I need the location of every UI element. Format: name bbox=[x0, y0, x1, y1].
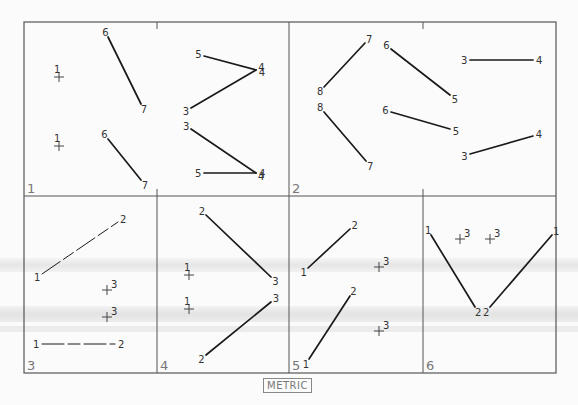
cross-marker: 3 bbox=[102, 279, 117, 295]
point-label: 5 bbox=[453, 126, 459, 137]
cross-label: 3 bbox=[383, 320, 389, 331]
panel-1-segment bbox=[191, 129, 256, 173]
point-label: 4 bbox=[536, 129, 542, 140]
cross-label: 1 bbox=[184, 296, 190, 307]
point-label: 3 bbox=[183, 121, 189, 132]
point-label: 5 bbox=[452, 94, 458, 105]
point-label: 2 bbox=[483, 307, 489, 318]
point-label: 6 bbox=[382, 105, 388, 116]
cross-label: 3 bbox=[111, 279, 117, 290]
point-label: 6 bbox=[383, 40, 389, 51]
panel-1-segment bbox=[108, 139, 141, 180]
point-label: 4 bbox=[259, 168, 265, 179]
point-label: 2 bbox=[475, 307, 481, 318]
cross-marker: 3 bbox=[102, 306, 117, 322]
point-label: 4 bbox=[258, 62, 264, 73]
cross-marker: 1 bbox=[184, 296, 194, 314]
cross-label: 1 bbox=[54, 133, 60, 144]
panel-2-segment bbox=[391, 112, 450, 129]
unit-system-label: METRIC bbox=[263, 378, 312, 393]
point-label: 5 bbox=[195, 49, 201, 60]
panel-5-segment bbox=[309, 296, 350, 359]
panel-4-segment bbox=[206, 215, 271, 277]
point-label: 7 bbox=[366, 34, 372, 45]
point-label: 2 bbox=[199, 206, 205, 217]
point-label: 3 bbox=[461, 151, 467, 162]
point-label: 3 bbox=[273, 293, 279, 304]
panel-6-segment bbox=[490, 235, 552, 307]
panel-number-4: 4 bbox=[160, 358, 168, 373]
point-label: 3 bbox=[461, 55, 467, 66]
panel-1-segment bbox=[204, 56, 256, 70]
point-label: 7 bbox=[142, 180, 148, 191]
point-label: 8 bbox=[317, 86, 323, 97]
cross-label: 1 bbox=[54, 64, 60, 75]
panel-6-segment bbox=[431, 235, 475, 307]
point-label: 7 bbox=[367, 161, 373, 172]
panel-1-segment bbox=[108, 37, 141, 104]
cross-marker: 1 bbox=[184, 262, 194, 280]
cross-marker: 3 bbox=[455, 228, 470, 244]
point-label: 1 bbox=[425, 225, 431, 236]
point-label: 2 bbox=[198, 354, 204, 365]
point-label: 2 bbox=[351, 220, 357, 231]
cross-label: 3 bbox=[111, 306, 117, 317]
panel-2-segment bbox=[324, 112, 366, 161]
point-label: 1 bbox=[303, 359, 309, 370]
cross-label: 3 bbox=[494, 228, 500, 239]
panel-number-1: 1 bbox=[27, 181, 35, 196]
point-label: 4 bbox=[536, 55, 542, 66]
cross-label: 3 bbox=[464, 228, 470, 239]
diagram-marks: 6767543434541187876565343412123323231112… bbox=[33, 27, 559, 370]
panel-2-segment bbox=[324, 43, 365, 87]
point-label: 3 bbox=[183, 106, 189, 117]
panel-2-segment bbox=[391, 49, 450, 95]
point-label: 2 bbox=[118, 339, 124, 350]
point-label: 5 bbox=[195, 168, 201, 179]
panel-5-segment bbox=[308, 229, 350, 268]
panel-number-6: 6 bbox=[426, 358, 434, 373]
point-label: 6 bbox=[102, 27, 108, 38]
panel-number-5: 5 bbox=[292, 358, 300, 373]
figure-canvas: 1 2 3 4 5 6 6767543434541187876565343412… bbox=[0, 0, 578, 405]
panel-4-segment bbox=[206, 302, 271, 355]
point-label: 8 bbox=[317, 102, 323, 113]
panel-1-segment bbox=[191, 70, 256, 108]
cross-marker: 3 bbox=[374, 256, 389, 272]
point-label: 1 bbox=[33, 339, 39, 350]
outer-frame bbox=[24, 22, 556, 373]
point-label: 1 bbox=[34, 272, 40, 283]
panel-2-segment bbox=[470, 136, 533, 154]
cross-label: 1 bbox=[184, 262, 190, 273]
cross-marker: 1 bbox=[54, 64, 64, 82]
point-label: 3 bbox=[272, 276, 278, 287]
panel-number-3: 3 bbox=[27, 358, 35, 373]
point-label: 6 bbox=[101, 129, 107, 140]
cross-marker: 1 bbox=[54, 133, 64, 151]
cross-label: 3 bbox=[383, 256, 389, 267]
point-label: 7 bbox=[141, 104, 147, 115]
point-label: 2 bbox=[350, 286, 356, 297]
cross-marker: 3 bbox=[485, 228, 500, 244]
cross-marker: 3 bbox=[374, 320, 389, 336]
panel-number-2: 2 bbox=[292, 181, 300, 196]
point-label: 2 bbox=[120, 214, 126, 225]
point-label: 1 bbox=[301, 267, 307, 278]
panel-3-segment bbox=[42, 222, 118, 274]
point-label: 1 bbox=[553, 226, 559, 237]
